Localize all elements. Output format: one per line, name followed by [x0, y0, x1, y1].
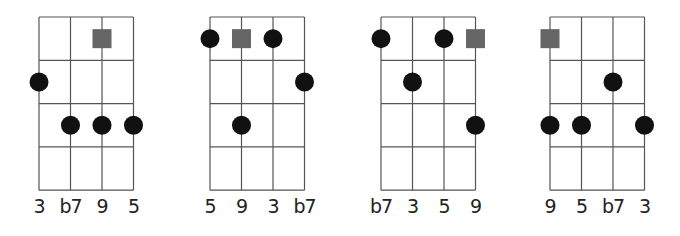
interval-label: 5: [567, 195, 597, 217]
root-note-marker: [541, 29, 560, 48]
finger-dot: [541, 116, 560, 135]
finger-dot: [604, 72, 623, 91]
interval-label: 9: [535, 195, 565, 217]
finger-dot: [572, 116, 591, 135]
chord-diagram-4: 95b73: [0, 0, 680, 236]
interval-label: 3: [630, 195, 660, 217]
interval-label: b7: [598, 195, 628, 217]
finger-dot: [635, 116, 654, 135]
